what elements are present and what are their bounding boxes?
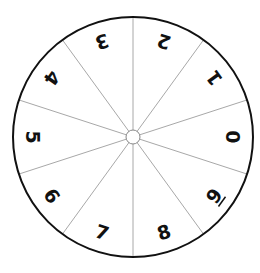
digit-label: 6 bbox=[39, 184, 65, 208]
segment-9: 9 bbox=[201, 184, 227, 208]
spinner-hub bbox=[126, 130, 140, 144]
number-spinner-wheel: 0 1 2 3 4 5 6 7 8 9 bbox=[0, 0, 260, 273]
digit-label: 2 bbox=[154, 29, 173, 54]
digit-label: 8 bbox=[154, 220, 173, 245]
segment-7: 7 bbox=[92, 220, 111, 245]
segment-8: 8 bbox=[154, 220, 173, 245]
digit-label: 1 bbox=[201, 66, 227, 90]
digit-label: 0 bbox=[222, 130, 244, 143]
digit-label: 5 bbox=[22, 130, 44, 143]
digit-label: 9 bbox=[201, 184, 227, 208]
segment-4: 4 bbox=[39, 66, 65, 90]
segment-0: 0 bbox=[222, 130, 244, 143]
segment-5: 5 bbox=[22, 130, 44, 143]
segment-1: 1 bbox=[201, 66, 227, 90]
segment-2: 2 bbox=[154, 29, 173, 54]
segment-3: 3 bbox=[92, 29, 111, 54]
segment-6: 6 bbox=[39, 184, 65, 208]
digit-label: 3 bbox=[92, 29, 111, 54]
digit-label: 4 bbox=[39, 66, 65, 90]
digit-label: 7 bbox=[92, 220, 111, 245]
